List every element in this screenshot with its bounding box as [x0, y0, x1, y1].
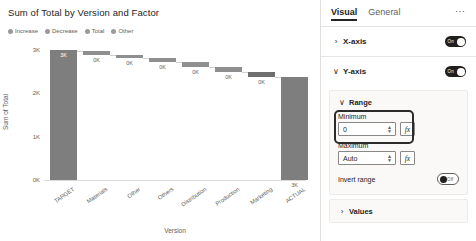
maximum-field-row: Auto ▲▼ fx: [338, 151, 459, 165]
maximum-value: Auto: [343, 155, 357, 162]
y-axis-title: Sum of Total: [2, 94, 9, 130]
invert-range-label: Invert range: [338, 176, 375, 183]
x-axis-tick-label: Marketing: [249, 186, 273, 206]
chart-title: Sum of Total by Version and Factor: [8, 7, 159, 18]
toggle-y-axis[interactable]: On: [445, 66, 466, 77]
y-axis-tick-label: 3K: [33, 47, 40, 53]
toggle-knob: [457, 68, 465, 76]
x-axis-tick-label: Materials: [85, 186, 108, 204]
format-pane: Visual General ⋯ › X-axis On ∨ Y-axis On: [320, 0, 476, 241]
bar-data-label: 0K: [225, 74, 232, 80]
toggle-y-axis-state: On: [448, 69, 454, 74]
app-root: Sum of Total by Version and Factor Incre…: [0, 0, 476, 241]
legend-item-label: Total: [92, 28, 105, 34]
y-axis-tick-label: 1K: [33, 134, 40, 140]
toggle-invert-range-state: Off: [447, 177, 454, 182]
section-y-axis-label: Y-axis: [343, 67, 366, 76]
range-card-title: Range: [349, 98, 372, 107]
chart-panel: Sum of Total by Version and Factor Incre…: [0, 0, 320, 241]
pane-tab-list: Visual General ⋯: [321, 0, 476, 26]
range-card-header[interactable]: ∨ Range: [330, 91, 467, 113]
bar-data-label: 0K: [126, 60, 133, 66]
minimum-stepper[interactable]: ▲▼: [387, 125, 392, 133]
bar-data-label: 0K: [192, 69, 199, 75]
tab-general[interactable]: General: [368, 7, 400, 20]
maximum-fx-button[interactable]: fx: [400, 151, 415, 165]
legend-item[interactable]: Decrease: [45, 28, 78, 34]
toggle-knob: [457, 38, 465, 46]
x-axis-tick-label: ACTUAL: [284, 186, 306, 204]
tab-visual[interactable]: Visual: [331, 7, 357, 20]
chart-bar[interactable]: [281, 77, 308, 180]
values-card: › Values: [329, 199, 468, 223]
x-axis-title: Version: [44, 227, 306, 234]
x-axis-tick-label: Production: [214, 186, 240, 207]
x-axis-line: [44, 180, 306, 181]
legend-item[interactable]: Increase: [8, 28, 38, 34]
bar-data-label: 0K: [159, 64, 166, 70]
legend-item[interactable]: Total: [85, 28, 105, 34]
maximum-stepper[interactable]: ▲▼: [387, 154, 392, 162]
legend-swatch-icon: [8, 29, 13, 34]
range-card: ∨ Range Minimum 0 ▲▼ fx Maximum: [329, 90, 468, 195]
chart-bar[interactable]: [50, 50, 77, 180]
chart-bar[interactable]: [149, 58, 176, 62]
legend-swatch-icon: [45, 29, 50, 34]
x-axis-tick-label: Others: [156, 186, 174, 201]
x-axis-ticks: TARGETMaterialsOtherOthersDistributionPr…: [44, 182, 306, 222]
chart-legend: IncreaseDecreaseTotalOther: [8, 28, 133, 34]
minimum-label: Minimum: [338, 113, 459, 120]
chart-bar[interactable]: [248, 72, 275, 78]
maximum-input[interactable]: Auto ▲▼: [338, 151, 396, 165]
y-axis-tick-label: 2K: [33, 90, 40, 96]
legend-swatch-icon: [111, 29, 116, 34]
legend-item-label: Increase: [15, 28, 38, 34]
legend-swatch-icon: [85, 29, 90, 34]
minimum-field-block: Minimum 0 ▲▼ fx: [330, 113, 467, 136]
section-values-label: Values: [349, 207, 373, 216]
chart-bar[interactable]: [182, 62, 209, 67]
legend-item-label: Decrease: [52, 28, 78, 34]
chevron-down-icon: ∨: [337, 98, 347, 107]
chevron-right-icon: ›: [337, 207, 347, 216]
maximum-label: Maximum: [338, 142, 459, 149]
legend-item[interactable]: Other: [111, 28, 133, 34]
invert-range-row: Invert range Off: [330, 172, 467, 186]
x-axis-tick-label: Distribution: [180, 186, 207, 208]
more-options-icon[interactable]: ⋯: [455, 7, 466, 17]
bar-data-label: 0K: [93, 57, 100, 63]
y-axis-ticks: 0K1K2K3K: [20, 50, 42, 180]
minimum-field-row: 0 ▲▼ fx: [338, 122, 459, 136]
bar-data-label: 3K: [60, 52, 67, 58]
toggle-x-axis-state: On: [448, 39, 454, 44]
plot-area: 3K0K0K0K0K0K0K3K: [44, 50, 306, 180]
chart-bar[interactable]: [83, 51, 110, 55]
x-axis-tick-label: Other: [126, 186, 141, 199]
section-x-axis[interactable]: › X-axis On: [321, 27, 476, 56]
section-y-axis[interactable]: ∨ Y-axis On: [321, 57, 476, 86]
maximum-field-block: Maximum Auto ▲▼ fx: [330, 142, 467, 165]
chart-bar[interactable]: [215, 67, 242, 72]
legend-item-label: Other: [118, 28, 133, 34]
chevron-right-icon: ›: [331, 37, 341, 46]
bar-data-label: 0K: [258, 79, 265, 85]
minimum-value: 0: [343, 126, 347, 133]
chevron-down-icon: ∨: [331, 67, 341, 76]
section-x-axis-label: X-axis: [343, 37, 367, 46]
minimum-input[interactable]: 0 ▲▼: [338, 122, 396, 136]
x-axis-tick-label: TARGET: [53, 186, 75, 204]
minimum-fx-button[interactable]: fx: [400, 122, 415, 136]
toggle-invert-range[interactable]: Off: [437, 173, 459, 185]
plot-wrapper: Sum of Total 0K1K2K3K 3K0K0K0K0K0K0K3K T…: [0, 42, 320, 241]
y-axis-tick-label: 0K: [33, 177, 40, 183]
section-values[interactable]: › Values: [330, 200, 467, 222]
toggle-knob: [440, 176, 447, 183]
toggle-x-axis[interactable]: On: [445, 36, 466, 47]
chart-bar[interactable]: [116, 55, 143, 59]
